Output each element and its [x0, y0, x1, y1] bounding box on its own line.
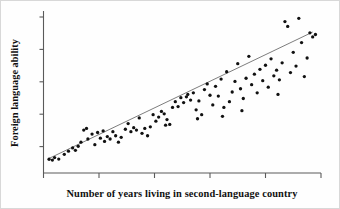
data-point [272, 74, 275, 77]
data-point [308, 31, 311, 34]
data-point [67, 149, 70, 152]
data-point [93, 143, 96, 146]
data-point [222, 106, 225, 109]
data-point [63, 153, 66, 156]
data-point [96, 131, 99, 134]
data-point [292, 51, 295, 54]
data-point [278, 78, 281, 81]
data-point [149, 125, 152, 128]
data-point [311, 35, 314, 38]
data-point [57, 157, 60, 160]
data-point [233, 80, 236, 83]
data-point [240, 109, 243, 112]
x-axis-ticks [44, 173, 322, 178]
data-point [242, 97, 245, 100]
data-point [283, 20, 286, 23]
data-point [203, 88, 206, 91]
data-point [194, 108, 197, 111]
data-point [261, 79, 264, 82]
data-point [117, 141, 120, 144]
data-point [196, 117, 199, 120]
data-point [236, 62, 239, 65]
data-point [244, 77, 247, 80]
data-point [79, 141, 82, 144]
data-point [124, 128, 127, 131]
data-point [102, 129, 105, 132]
y-axis-title: Foreign language ability [9, 38, 20, 147]
data-point [165, 118, 168, 121]
scatter-points [47, 17, 317, 162]
data-point [168, 123, 171, 126]
data-point [225, 70, 228, 73]
data-point [82, 128, 85, 131]
data-point [47, 158, 50, 161]
data-point [174, 100, 177, 103]
data-point [197, 99, 200, 102]
data-point [189, 98, 192, 101]
data-point [129, 130, 132, 133]
data-point [228, 100, 231, 103]
data-point [206, 82, 209, 85]
data-point [157, 115, 160, 118]
data-point [192, 91, 195, 94]
data-point [289, 71, 292, 74]
data-point [208, 94, 211, 97]
data-point [85, 127, 88, 130]
plot-canvas: Number of years living in second-languag… [1, 1, 340, 209]
data-point [103, 140, 106, 143]
data-point [186, 93, 189, 96]
data-point [258, 68, 261, 71]
data-point [163, 112, 166, 115]
data-point [303, 75, 306, 78]
data-point [200, 113, 203, 116]
data-point [275, 68, 278, 71]
data-point [132, 126, 135, 129]
data-point [111, 130, 114, 133]
data-point [300, 41, 303, 44]
data-point [140, 132, 143, 135]
data-point [247, 55, 250, 58]
data-point [217, 94, 220, 97]
data-point [86, 137, 89, 140]
data-point [74, 149, 77, 152]
data-point [126, 122, 129, 125]
y-axis-ticks [40, 17, 44, 147]
data-point [176, 105, 179, 108]
data-point [305, 56, 308, 59]
data-point [182, 101, 185, 104]
data-point [297, 17, 300, 20]
data-point [51, 158, 54, 161]
data-point [108, 137, 111, 140]
data-point [214, 85, 217, 88]
data-point [143, 127, 146, 130]
data-point [211, 103, 214, 106]
data-point [256, 91, 259, 94]
data-point [106, 135, 109, 138]
data-point [160, 110, 163, 113]
data-point [239, 87, 242, 90]
data-point [264, 64, 267, 67]
data-point [114, 134, 117, 137]
data-point [179, 96, 182, 99]
data-point [231, 90, 234, 93]
data-point [221, 115, 224, 118]
data-point [146, 134, 149, 137]
data-point [138, 116, 141, 119]
scatter-plot-figure: Number of years living in second-languag… [0, 0, 340, 209]
data-point [77, 145, 80, 148]
data-point [281, 61, 284, 64]
data-point [286, 25, 289, 28]
data-point [71, 146, 74, 149]
data-point [171, 106, 174, 109]
data-point [90, 132, 93, 135]
data-point [276, 93, 279, 96]
data-point [267, 85, 270, 88]
data-point [151, 113, 154, 116]
data-point [294, 64, 297, 67]
data-point [120, 136, 123, 139]
data-point [314, 33, 317, 36]
data-point [135, 128, 138, 131]
data-point [219, 77, 222, 80]
data-point [250, 83, 253, 86]
data-point [164, 124, 167, 127]
